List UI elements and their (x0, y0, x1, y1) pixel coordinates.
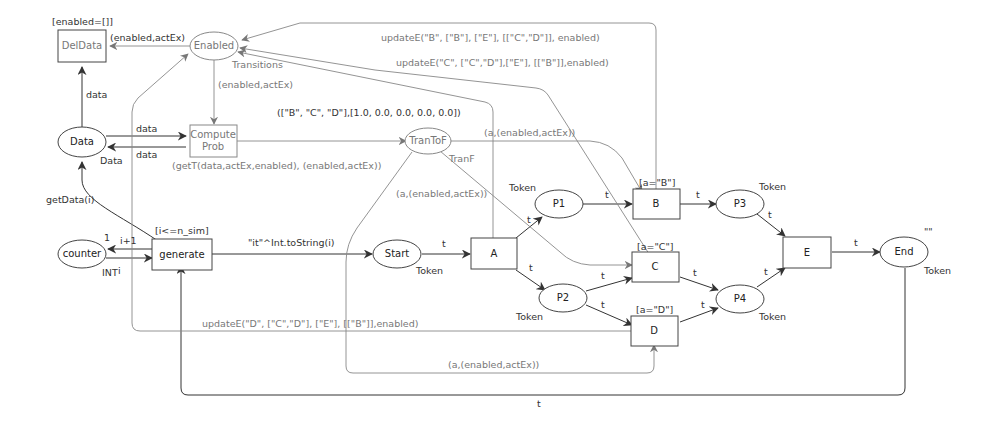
guard-c: [a="C"] (637, 241, 674, 252)
colorset-counter: INT (102, 267, 118, 278)
place-end-label: End (894, 246, 913, 257)
arc-label-generate-counter: i+1 (120, 235, 137, 246)
arc-c-p4 (680, 277, 718, 290)
arc-label-data-compute: data (136, 123, 157, 134)
colorset-p3: Token (758, 181, 786, 192)
arc-label-compute-trantof: (getT(data,actEx,enabled), (enabled,actE… (172, 160, 381, 171)
arc-label-b-p3: t (696, 189, 700, 200)
arc-label-trantof-b: (a,(enabled,actEx)) (484, 127, 575, 138)
transition-d-label: D (650, 325, 658, 336)
colorset-p2: Token (515, 311, 543, 322)
arc-label-generate-start: "it"^Int.toString(i) (248, 237, 335, 248)
transition-generate-label: generate (159, 249, 204, 260)
transition-a-label: A (491, 248, 498, 259)
arc-label-c-enabled: updateE("C", ["C","D"],["E"], [["B"]],en… (396, 57, 609, 68)
arc-label-trantof-c: (a,(enabled,actEx)) (396, 188, 487, 199)
place-start-label: Start (385, 248, 410, 259)
arc-label-enabled-compute: (enabled,actEx) (218, 79, 293, 90)
transition-b-label: B (653, 198, 660, 209)
arc-label-c-p4: t (693, 267, 697, 278)
arc-label-d-enabled: updateE("D", ["C","D"], ["E"], [["B"]],e… (202, 318, 418, 329)
place-p1-label: P1 (553, 198, 565, 209)
arc-label-a-p2: t (529, 262, 533, 273)
arc-trantof-b (450, 141, 642, 192)
arc-a-p2 (516, 270, 545, 290)
place-counter-label: counter (63, 248, 102, 259)
place-enabled-label: Enabled (194, 40, 234, 51)
guard-b: [a="B"] (639, 177, 675, 188)
arc-p4-e (757, 268, 785, 287)
guard-d: [a="D"] (636, 304, 673, 315)
transition-c-label: C (652, 261, 659, 272)
arc-label-counter-generate: i (118, 265, 121, 276)
marking-end: "" (924, 226, 933, 237)
arc-label-data-deldata: data (86, 89, 107, 100)
arc-label-compute-data: data (136, 149, 157, 160)
guard-deldata: [enabled=[]] (52, 16, 113, 27)
petri-net-diagram: Enabled Data TranToF counter Start P1 P2… (0, 0, 991, 424)
arc-label-p3-e: t (768, 209, 772, 220)
colorset-enabled: Transitions (231, 59, 283, 70)
arc-labels: (enabled,actEx) (enabled,actEx) data dat… (46, 32, 858, 409)
arc-label-d-p4: t (701, 299, 705, 310)
arc-label-a-p1: t (527, 214, 531, 225)
guard-generate: [i<=n_sim] (155, 225, 209, 236)
place-p4-label: P4 (734, 293, 746, 304)
transition-deldata-label: DelData (62, 40, 103, 51)
arc-label-p2-c: t (601, 270, 605, 281)
arc-d-p4 (680, 308, 718, 322)
colorset-start: Token (415, 265, 443, 276)
arc-label-end-generate: t (537, 398, 541, 409)
colorset-data: Data (100, 155, 123, 166)
arc-p2-c (586, 278, 632, 291)
place-p2-label: P2 (557, 292, 569, 303)
marking-counter: 1 (104, 232, 110, 243)
transition-e-label: E (804, 247, 810, 258)
arc-label-start-a: t (442, 238, 446, 249)
colorset-trantof: TranF (448, 153, 475, 164)
transition-compute-label-1: Compute (190, 129, 236, 140)
arc-label-p4-e: t (764, 266, 768, 277)
arc-label-p1-b: t (605, 189, 609, 200)
colorset-p4: Token (758, 311, 786, 322)
arc-label-e-end: t (854, 237, 858, 248)
place-data-label: Data (70, 136, 94, 147)
arc-label-generate-data: getData(i) (46, 194, 94, 205)
arc-label-p2-d: t (601, 299, 605, 310)
arcs (82, 23, 905, 395)
place-trantof-label: TranToF (408, 135, 447, 146)
arc-label-b-enabled: updateE("B", ["B"], ["E"], [["C","D"]], … (381, 32, 600, 43)
arc-label-a-enabled: (["B", "C", "D"],[1.0, 0.0, 0.0, 0.0, 0.… (277, 107, 461, 118)
transition-compute-label-2: Prob (202, 141, 224, 152)
colorset-end: Token (923, 265, 951, 276)
colorset-p1: Token (508, 182, 536, 193)
arc-p2-d (586, 305, 632, 325)
arc-label-enabled-deldata: (enabled,actEx) (110, 32, 185, 43)
arc-end-generate (181, 266, 905, 395)
place-p3-label: P3 (734, 198, 746, 209)
arc-label-trantof-d: (a,(enabled,actEx)) (448, 359, 539, 370)
